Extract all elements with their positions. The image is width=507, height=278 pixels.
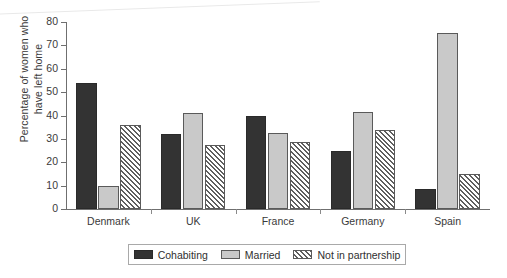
- legend-entry-not-in-partnership: Not in partnership: [293, 249, 400, 261]
- y-axis-tick-label: 60: [46, 62, 58, 74]
- bar-uk-cohabiting: [161, 134, 182, 209]
- y-axis-tick: 30: [61, 139, 66, 140]
- y-axis-tick: 20: [61, 162, 66, 163]
- bar-chart: Percentage of women who have left home 0…: [0, 0, 507, 278]
- x-axis-separator: [320, 209, 321, 214]
- category-label-spain: Spain: [434, 215, 461, 227]
- bar-germany-not-in-partnership: [375, 130, 396, 209]
- y-axis-title-line2: have left home: [32, 44, 44, 114]
- bar-denmark-cohabiting: [76, 83, 97, 209]
- x-axis-separator: [151, 209, 152, 214]
- y-axis-tick-label: 20: [46, 155, 58, 167]
- y-axis-tick-label: 30: [46, 132, 58, 144]
- y-axis-tick: 0: [61, 209, 66, 210]
- x-axis-separator: [405, 209, 406, 214]
- legend-label: Married: [245, 249, 281, 261]
- legend-label: Not in partnership: [317, 249, 400, 261]
- y-axis-tick-label: 70: [46, 38, 58, 50]
- chart-legend: CohabitingMarriedNot in partnership: [128, 244, 406, 265]
- y-axis-tick-label: 0: [52, 202, 58, 214]
- y-axis-line: [66, 22, 67, 210]
- y-axis-tick: 40: [61, 116, 66, 117]
- category-label-uk: UK: [186, 215, 201, 227]
- y-axis-tick: 50: [61, 92, 66, 93]
- category-label-denmark: Denmark: [87, 215, 130, 227]
- bar-germany-cohabiting: [331, 151, 352, 209]
- bar-spain-married: [437, 33, 458, 209]
- bar-uk-married: [183, 113, 204, 209]
- bar-uk-not-in-partnership: [205, 145, 226, 209]
- y-axis-tick: 60: [61, 69, 66, 70]
- y-axis-tick-label: 40: [46, 109, 58, 121]
- bar-denmark-not-in-partnership: [120, 125, 141, 209]
- bar-germany-married: [353, 112, 374, 209]
- y-axis-tick-label: 80: [46, 15, 58, 27]
- legend-swatch-icon: [293, 250, 312, 259]
- legend-label: Cohabiting: [158, 249, 208, 261]
- x-axis-separator: [236, 209, 237, 214]
- bar-france-married: [268, 133, 289, 209]
- legend-swatch-icon: [221, 250, 240, 259]
- plot-area: 01020304050607080 DenmarkUKFranceGermany…: [66, 22, 490, 209]
- y-axis-tick-label: 10: [46, 179, 58, 191]
- y-axis-tick: 70: [61, 45, 66, 46]
- y-axis-tick: 10: [61, 186, 66, 187]
- bar-spain-cohabiting: [415, 189, 436, 209]
- category-label-germany: Germany: [341, 215, 384, 227]
- bar-spain-not-in-partnership: [459, 174, 480, 209]
- legend-swatch-icon: [134, 250, 153, 259]
- y-axis-tick: 80: [61, 22, 66, 23]
- x-axis-line: [66, 209, 490, 210]
- y-axis-title-line1: Percentage of women who: [18, 16, 30, 143]
- legend-entry-cohabiting: Cohabiting: [134, 249, 208, 261]
- bar-denmark-married: [98, 186, 119, 209]
- category-label-france: France: [262, 215, 295, 227]
- bar-france-not-in-partnership: [290, 142, 311, 209]
- legend-entry-married: Married: [221, 249, 281, 261]
- y-axis-tick-label: 50: [46, 85, 58, 97]
- bar-france-cohabiting: [246, 116, 267, 210]
